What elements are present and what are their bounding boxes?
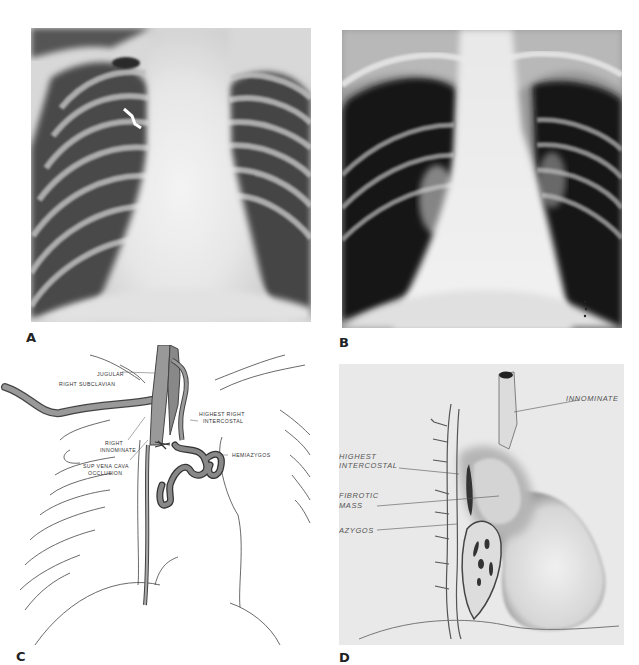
label-highest-intercostal-2: INTERCOSTAL: [339, 461, 398, 470]
label-fibrotic-mass-2: MASS: [339, 501, 363, 510]
panel-d-illustration: INNOMINATE HIGHEST INTERCOSTAL FIBROTIC …: [339, 364, 624, 645]
label-right-subclavian: RIGHT SUBCLAVIAN: [59, 381, 115, 387]
label-highest-right-intercostal-1: HIGHEST RIGHT: [199, 411, 245, 417]
label-sup-vena-cava-1: SUP VENA CAVA: [83, 463, 129, 469]
label-highest-intercostal-1: HIGHEST: [339, 452, 377, 461]
panel-a-radiograph: [31, 28, 311, 322]
panel-label-a: A: [26, 330, 36, 345]
label-highest-right-intercostal-2: INTERCOSTAL: [203, 418, 243, 424]
label-hemiazygos: HEMIAZYGOS: [232, 452, 271, 458]
panel-label-d: D: [339, 650, 350, 665]
panel-label-c: C: [16, 649, 26, 664]
panel-c-diagram: JUGULAR RIGHT SUBCLAVIAN RIGHT INNOMINAT…: [0, 345, 320, 647]
label-innominate: INNOMINATE: [566, 394, 619, 403]
label-azygos: AZYGOS: [339, 526, 374, 535]
label-right-innominate-1: RIGHT: [105, 440, 124, 446]
label-fibrotic-mass-1: FIBROTIC: [339, 491, 379, 500]
label-jugular: JUGULAR: [97, 371, 124, 377]
panel-label-b: B: [339, 335, 349, 350]
label-sup-vena-cava-2: OCCLUSION: [88, 470, 122, 476]
panel-b-radiograph: [342, 30, 622, 328]
label-right-innominate-2: INNOMINATE: [100, 447, 136, 453]
